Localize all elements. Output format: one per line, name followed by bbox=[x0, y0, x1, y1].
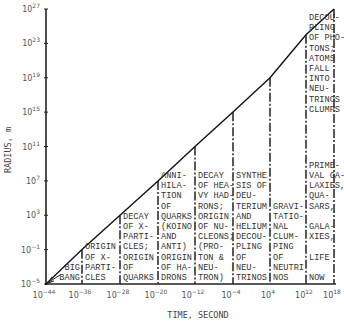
svg-text:CLUM-: CLUM- bbox=[273, 232, 299, 242]
x-tick-label: 1012 bbox=[295, 288, 313, 300]
svg-text:TRINOS: TRINOS bbox=[309, 95, 340, 105]
svg-text:(KOINO: (KOINO bbox=[161, 222, 192, 232]
svg-text:GALA-: GALA- bbox=[309, 222, 335, 232]
svg-text:ORIGIN: ORIGIN bbox=[85, 242, 116, 252]
svg-text:QUA-: QUA- bbox=[309, 191, 330, 201]
svg-text:OF NU-: OF NU- bbox=[198, 222, 229, 232]
svg-text:LAXIES,: LAXIES, bbox=[309, 181, 344, 191]
svg-text:VAL GA-: VAL GA- bbox=[309, 171, 344, 181]
x-tick-label: 10−4 bbox=[221, 288, 240, 300]
svg-text:BANG: BANG bbox=[59, 273, 80, 283]
y-tick-label: 1027 bbox=[22, 2, 40, 14]
svg-text:DEU-: DEU- bbox=[236, 191, 257, 201]
svg-text:SARS,: SARS, bbox=[309, 202, 335, 212]
svg-text:LIFE: LIFE bbox=[309, 253, 330, 263]
svg-text:TONS;: TONS; bbox=[309, 44, 335, 54]
svg-text:OF X-: OF X- bbox=[85, 253, 111, 263]
svg-text:TRON): TRON) bbox=[198, 273, 224, 283]
svg-text:HELIUM: HELIUM bbox=[236, 222, 267, 232]
svg-text:ORIGIN: ORIGIN bbox=[161, 253, 192, 263]
y-axis-title: RADIUS, m bbox=[3, 127, 13, 173]
x-tick-label: 10−36 bbox=[69, 288, 92, 300]
era-label: SYNTHESIS OFDEU-TERIUMANDHELIUMDECOU-PLI… bbox=[236, 171, 267, 283]
svg-text:XIES,: XIES, bbox=[309, 232, 335, 242]
svg-text:TERIUM: TERIUM bbox=[236, 202, 267, 212]
y-tick-label: 107 bbox=[26, 174, 40, 186]
svg-text:OF HA-: OF HA- bbox=[161, 263, 192, 273]
svg-text:PLING: PLING bbox=[236, 242, 262, 252]
svg-text:PING: PING bbox=[273, 242, 294, 252]
svg-text:NOS: NOS bbox=[273, 273, 288, 283]
y-tick-label: 1015 bbox=[22, 105, 40, 117]
era-label: DECOU-PLINGOF PHO-TONS;ATOMSFALLINTONEU-… bbox=[309, 13, 344, 283]
svg-text:PLING: PLING bbox=[309, 23, 335, 33]
era-label: ANNI-HILA-TIONOFQUARKS(KOINOANDANTI)ORIG… bbox=[161, 171, 192, 283]
svg-text:AND: AND bbox=[161, 232, 176, 242]
svg-text:DECAY: DECAY bbox=[123, 212, 149, 222]
svg-text:SIS OF: SIS OF bbox=[236, 181, 267, 191]
svg-text:OF: OF bbox=[273, 253, 283, 263]
y-tick-label: 10−1 bbox=[21, 243, 40, 255]
era-label: ORIGINOF X-PARTI-CLES bbox=[85, 242, 116, 283]
svg-text:NEU-: NEU- bbox=[236, 263, 257, 273]
svg-text:OF: OF bbox=[161, 202, 171, 212]
svg-text:DECAY: DECAY bbox=[198, 171, 224, 181]
svg-text:TON &: TON & bbox=[198, 253, 224, 263]
x-tick-label: 104 bbox=[261, 288, 275, 300]
svg-text:FALL: FALL bbox=[309, 64, 330, 74]
svg-text:SYNTHE: SYNTHE bbox=[236, 171, 267, 181]
svg-text:INTO: INTO bbox=[309, 74, 330, 84]
era-label: DECAYOF HEA-VY HAD-RONS;ORIGINOF NU-CLEO… bbox=[198, 171, 234, 283]
svg-text:(PRO-: (PRO- bbox=[198, 242, 224, 252]
y-tick-label: 1011 bbox=[22, 140, 40, 152]
svg-text:PRIME-: PRIME- bbox=[309, 161, 340, 171]
svg-text:NOW: NOW bbox=[309, 273, 325, 283]
svg-text:QUARKS: QUARKS bbox=[161, 212, 192, 222]
svg-text:TION: TION bbox=[161, 191, 182, 201]
y-tick-labels: 10−510−110310710111015101910231027 bbox=[21, 2, 40, 289]
svg-text:ORIGIN: ORIGIN bbox=[123, 253, 154, 263]
svg-text:OF PHO-: OF PHO- bbox=[309, 33, 344, 43]
x-axis-title: TIME, SECOND bbox=[167, 310, 228, 320]
svg-text:ANTI): ANTI) bbox=[161, 242, 187, 252]
svg-text:BIG: BIG bbox=[65, 263, 80, 273]
x-tick-label: 10−20 bbox=[145, 288, 168, 300]
svg-text:CLES: CLES bbox=[85, 273, 106, 283]
svg-text:TRINOS: TRINOS bbox=[236, 273, 267, 283]
svg-text:ORIGIN: ORIGIN bbox=[198, 212, 229, 222]
svg-text:RONS;: RONS; bbox=[198, 202, 224, 212]
svg-text:QUARKS: QUARKS bbox=[123, 273, 154, 283]
svg-text:PARTI-: PARTI- bbox=[123, 232, 154, 242]
svg-text:CLEONS;: CLEONS; bbox=[198, 232, 234, 242]
svg-text:AND: AND bbox=[236, 212, 251, 222]
svg-text:TATIO-: TATIO- bbox=[273, 212, 304, 222]
svg-text:OF: OF bbox=[236, 253, 246, 263]
svg-text:GRAVI-: GRAVI- bbox=[273, 202, 304, 212]
x-tick-label: 10−28 bbox=[107, 288, 130, 300]
svg-text:DRONS: DRONS bbox=[161, 273, 187, 283]
x-tick-label: 1018 bbox=[323, 288, 341, 300]
svg-text:NEU-: NEU- bbox=[309, 84, 330, 94]
y-tick-label: 103 bbox=[26, 208, 40, 220]
svg-text:ATOMS: ATOMS bbox=[309, 54, 335, 64]
x-tick-labels: 10−4410−3610−2810−2010−1210−410410121018 bbox=[33, 288, 342, 300]
y-tick-label: 1023 bbox=[22, 36, 40, 48]
x-tick-label: 10−12 bbox=[182, 288, 205, 300]
svg-text:OF HEA-: OF HEA- bbox=[198, 181, 234, 191]
svg-text:DECOU-: DECOU- bbox=[309, 13, 340, 23]
x-tick-label: 10−44 bbox=[33, 288, 56, 300]
svg-text:NEUTRI: NEUTRI bbox=[273, 263, 304, 273]
svg-text:CLES;: CLES; bbox=[123, 242, 149, 252]
era-label: BIGBANG bbox=[48, 263, 80, 283]
era-label: DECAYOF X-PARTI-CLES;ORIGINOFQUARKS bbox=[123, 212, 154, 283]
y-tick-label: 10−5 bbox=[21, 277, 40, 289]
svg-text:VY HAD-: VY HAD- bbox=[198, 191, 234, 201]
svg-text:DECOU-: DECOU- bbox=[236, 232, 267, 242]
universe-radius-chart: BIGBANGORIGINOF X-PARTI-CLESDECAYOF X-PA… bbox=[0, 0, 344, 324]
era-labels: BIGBANGORIGINOF X-PARTI-CLESDECAYOF X-PA… bbox=[48, 13, 344, 283]
svg-text:NEU-: NEU- bbox=[198, 263, 219, 273]
era-label: GRAVI-TATIO-NALCLUM-PINGOFNEUTRINOS bbox=[273, 202, 304, 283]
y-tick-label: 1019 bbox=[22, 71, 40, 83]
svg-text:ANNI-: ANNI- bbox=[161, 171, 187, 181]
svg-text:NAL: NAL bbox=[273, 222, 288, 232]
